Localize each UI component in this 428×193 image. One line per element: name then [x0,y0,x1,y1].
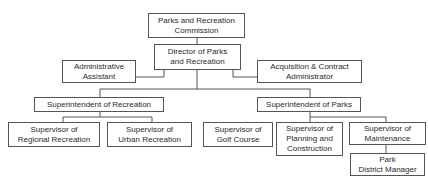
node-sup-golf: Supervisor of Golf Course [203,122,273,147]
node-sup-regional: Supervisor of Regional Recreation [8,122,100,147]
node-admin-assistant: Administrative Assistant [62,60,136,83]
node-supt-recreation: Superintendent of Recreation [34,97,164,112]
node-park-district-manager: Park District Manager [350,153,425,176]
node-director: Director of Parks and Recreation [154,44,241,70]
node-commission: Parks and Recreation Commission [148,13,245,38]
node-sup-urban: Supervisor of Urban Recreation [107,122,192,147]
node-acquisition-admin: Acquisition & Contract Administrator [257,60,362,83]
node-sup-maintenance: Supervisor of Maintenance [349,122,426,145]
node-supt-parks: Superintendent of Parks [257,97,361,112]
node-sup-planning: Supervisor of Planning and Construction [276,122,343,156]
